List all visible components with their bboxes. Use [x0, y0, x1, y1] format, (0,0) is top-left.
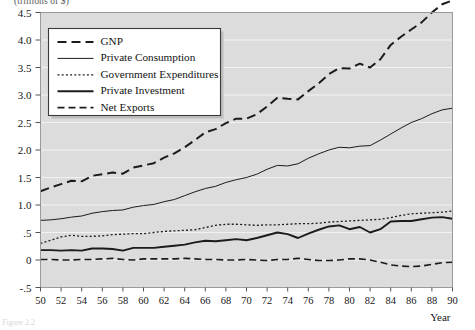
x-axis-title-text: Year — [430, 311, 451, 323]
x-axis-title: Year — [430, 311, 451, 323]
y-tick-label: 2.0 — [18, 144, 32, 156]
y-tick-label: 2.5 — [18, 117, 32, 129]
chart-legend: GNPPrivate ConsumptionGovernment Expendi… — [49, 29, 224, 119]
legend-label: GNP — [101, 35, 123, 47]
x-tick-label: 74 — [282, 295, 293, 306]
x-tick-label: 70 — [241, 295, 252, 306]
x-tick-label: 82 — [365, 295, 376, 306]
y-tick-label: 3.0 — [18, 89, 32, 101]
x-tick-label: 72 — [262, 295, 273, 306]
x-tick-label: 78 — [324, 295, 335, 306]
y-tick-label: 4.5 — [18, 7, 32, 19]
x-tick-label: 68 — [221, 295, 232, 306]
x-tick-label: 50 — [35, 295, 46, 306]
x-tick-label: 56 — [97, 295, 108, 306]
x-axis-tick-labels: 5052545658606264666870727476788082848688… — [35, 295, 458, 306]
y-axis-unit-label: (trillions of $) — [14, 0, 69, 6]
figure-caption: Figure 2.2 — [2, 318, 35, 327]
y-axis-tick-labels: -.50.51.01.52.02.53.03.54.04.5 — [18, 7, 32, 294]
line-chart: -.50.51.01.52.02.53.03.54.04.5 505254565… — [0, 0, 475, 330]
y-tick-label: .5 — [23, 227, 32, 239]
y-tick-label: 4.0 — [18, 34, 32, 46]
x-tick-label: 76 — [303, 295, 314, 306]
x-tick-label: 86 — [406, 295, 417, 306]
legend-label: Net Exports — [101, 101, 155, 113]
x-tick-label: 58 — [118, 295, 129, 306]
x-tick-label: 80 — [344, 295, 355, 306]
x-tick-label: 62 — [159, 295, 170, 306]
x-tick-label: 52 — [56, 295, 67, 306]
x-tick-label: 88 — [427, 295, 438, 306]
x-tick-label: 64 — [179, 295, 190, 306]
y-tick-label: -.5 — [20, 282, 32, 294]
x-tick-label: 90 — [447, 295, 458, 306]
x-tick-label: 54 — [76, 295, 87, 306]
y-tick-label: 1.0 — [18, 199, 32, 211]
y-tick-label: 1.5 — [18, 172, 32, 184]
legend-label: Government Expenditures — [101, 68, 219, 80]
y-tick-label: 3.5 — [18, 62, 32, 74]
legend-label: Private Investment — [101, 84, 186, 96]
x-tick-label: 66 — [200, 295, 211, 306]
y-tick-label: 0 — [26, 254, 32, 266]
figure-container: (trillions of $) -.50.51.01.52.02.53.03.… — [0, 0, 475, 330]
legend-label: Private Consumption — [101, 51, 196, 63]
x-tick-label: 60 — [138, 295, 149, 306]
x-tick-label: 84 — [385, 295, 396, 306]
